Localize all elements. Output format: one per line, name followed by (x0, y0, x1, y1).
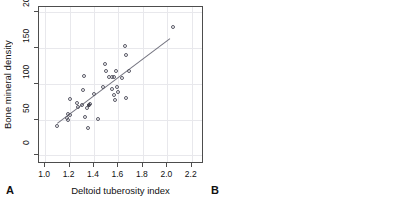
gridline-horizontal (39, 12, 202, 13)
plot-area-a (38, 6, 203, 163)
x-axis-tick-label: 1.4 (87, 169, 99, 179)
panel-b: Bone mineral density Tingart measurement… (207, 0, 414, 207)
x-axis-tick (117, 163, 118, 167)
gridline-horizontal (39, 48, 202, 49)
data-point (104, 69, 108, 73)
y-axis-tick-label: 100 (21, 61, 33, 83)
x-axis-tick-label: 1.6 (112, 169, 124, 179)
data-point (103, 62, 107, 66)
x-axis-tick (93, 163, 94, 167)
panel-letter-b: B (211, 184, 219, 196)
y-axis-tick-label: 50 (21, 97, 33, 119)
x-axis-title-a: Deltoid tuberosity index (71, 185, 170, 196)
x-axis-tick-label: 2.2 (185, 169, 197, 179)
data-point (96, 117, 100, 121)
data-point (114, 69, 118, 73)
x-axis-tick-label: 1.0 (38, 169, 50, 179)
x-axis-tick-label: 1.8 (136, 169, 148, 179)
figure-container: Bone mineral density Deltoid tuberosity … (0, 0, 414, 207)
data-point (88, 102, 92, 106)
data-point (68, 97, 72, 101)
data-point (124, 96, 128, 100)
data-point (101, 85, 105, 89)
data-point (80, 103, 84, 107)
data-point (171, 25, 175, 29)
data-point (92, 92, 96, 96)
data-point (110, 87, 114, 91)
gridline-horizontal (39, 155, 202, 156)
y-axis-tick (34, 119, 38, 120)
x-axis-tick-label: 2.0 (160, 169, 172, 179)
y-axis-tick (34, 11, 38, 12)
x-axis-tick (69, 163, 70, 167)
regression-line (57, 39, 170, 124)
y-axis-tick-label: 150 (21, 25, 33, 47)
y-axis-tick (34, 83, 38, 84)
data-point (82, 74, 86, 78)
data-point (55, 124, 59, 128)
data-point (86, 126, 90, 130)
panel-a: Bone mineral density Deltoid tuberosity … (0, 0, 207, 207)
panel-letter-a: A (6, 184, 14, 196)
x-axis-tick (44, 163, 45, 167)
y-axis-tick-label: 0 (21, 132, 33, 154)
y-axis-tick (34, 47, 38, 48)
gridline-horizontal (39, 84, 202, 85)
data-point (112, 93, 116, 97)
y-axis-tick-label: 200 (21, 0, 33, 11)
data-point (124, 53, 128, 57)
data-point (113, 98, 117, 102)
data-point (66, 118, 70, 122)
data-point (81, 88, 85, 92)
data-point (112, 75, 116, 79)
data-point (127, 69, 131, 73)
x-axis-tick (166, 163, 167, 167)
y-axis-tick (34, 154, 38, 155)
y-axis-title-a: Bone mineral density (2, 20, 13, 149)
x-axis-tick (142, 163, 143, 167)
x-axis-tick-label: 1.2 (63, 169, 75, 179)
data-point (68, 113, 72, 117)
x-axis-tick (191, 163, 192, 167)
data-point (116, 90, 120, 94)
data-point (120, 76, 124, 80)
gridline-horizontal (39, 120, 202, 121)
